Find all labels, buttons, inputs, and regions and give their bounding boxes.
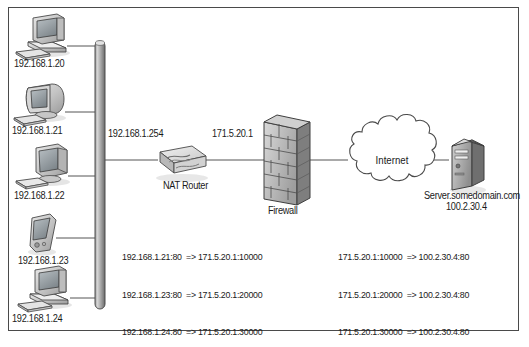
brick-wall-firewall-icon: [264, 115, 310, 205]
router-icon: [156, 146, 208, 182]
cloud-icon: [350, 114, 437, 180]
flat-panel-computer-icon-3: [16, 144, 70, 189]
server-address-label: 100.2.30.4: [446, 201, 487, 212]
mapping-row-outbound-1: 171.5.20.1:10000 => 100.2.30.4:80: [338, 251, 469, 264]
mapping-row-inbound-1: 192.168.1.21:80 => 171.5.20.1:10000: [122, 251, 262, 264]
mapping-row-outbound-2: 171.5.20.1:20000 => 100.2.30.4:80: [338, 289, 469, 302]
router-wan-address-label: 171.5.20.1: [212, 128, 253, 139]
client-label-3: 192.168.1.22: [14, 190, 64, 201]
desktop-computer-icon-1: [16, 14, 70, 60]
client-label-2: 192.168.1.21: [12, 125, 62, 136]
wan-to-server-port-mappings: 171.5.20.1:10000 => 100.2.30.4:80 171.5.…: [338, 226, 469, 347]
tower-server-icon: [450, 139, 486, 194]
router-name-label: NAT Router: [163, 180, 208, 191]
server-hostname-label: Server.somedomain.com: [424, 190, 520, 201]
client-label-1: 192.168.1.20: [14, 58, 64, 69]
firewall-label: Firewall: [268, 205, 297, 216]
network-diagram: 192.168.1.20 192.168.1.21 192.168.1.22 1…: [0, 0, 529, 347]
desktop-computer-icon-5: [18, 266, 72, 312]
mapping-row-inbound-3: 192.168.1.24:80 => 171.5.20.1:30000: [122, 326, 262, 339]
pda-handheld-icon-4: [28, 214, 56, 256]
router-lan-address-label: 192.168.1.254: [108, 128, 163, 139]
mapping-row-outbound-3: 171.5.20.1:30000 => 100.2.30.4:80: [338, 326, 469, 339]
client-label-4: 192.168.1.23: [18, 255, 68, 266]
client-label-5: 192.168.1.24: [12, 313, 62, 324]
network-backbone-bus: [95, 41, 105, 309]
mapping-row-inbound-2: 192.168.1.23:80 => 171.5.20.1:20000: [122, 289, 262, 302]
lan-to-wan-port-mappings: 192.168.1.21:80 => 171.5.20.1:10000 192.…: [122, 226, 262, 347]
internet-label: Internet: [363, 154, 422, 166]
crt-monitor-computer-icon-2: [14, 84, 66, 126]
